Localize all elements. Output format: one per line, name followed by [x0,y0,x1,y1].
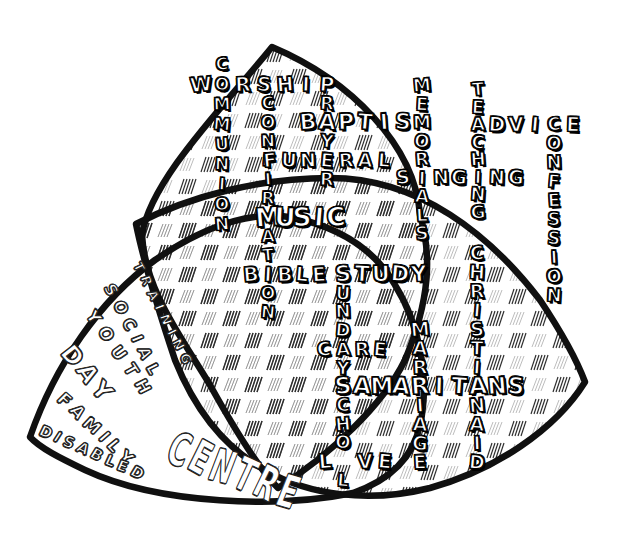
letter: M [412,76,431,95]
letter: F [263,150,278,170]
letter: E [547,191,561,210]
letter: N [214,215,230,233]
letter: C [326,203,347,230]
letter: O [214,195,229,213]
letter: N [300,150,317,170]
letter: V [357,451,373,472]
letter: I [218,176,225,193]
letter: I [313,204,325,231]
word-grid-layer: WRSHIPCOMMUNIONCONFIRATONRYRBAPTISMEMORI… [0,0,619,533]
letter: E [413,452,427,472]
letter: I [302,74,310,94]
letter: W [189,73,213,95]
letter: S [507,374,525,398]
letter: D [390,262,410,286]
letter: U [215,135,230,153]
letter: D [488,114,506,135]
letter: A [468,374,487,398]
letter: O [260,285,275,302]
letter: G [507,167,524,187]
letter: A [414,187,429,206]
letter: C [317,339,333,359]
letter: S [547,210,561,228]
letter: R [410,374,429,398]
letter: I [435,374,444,397]
letter: G [178,352,197,372]
letter: O [260,113,275,131]
letter: B [243,264,260,285]
letter: T [450,374,467,398]
letter: I [264,171,271,188]
letter: L [295,264,309,285]
letter: O [214,75,229,93]
letter: E [311,264,326,285]
letter: O [546,134,562,153]
letter: S [292,204,312,231]
letter: R [354,339,369,358]
letter: M [370,374,394,398]
letter: R [320,170,334,188]
letter: C [547,115,562,134]
letter: M [213,96,231,114]
letter: L [377,150,390,170]
letter: R [235,74,251,95]
letter: A [318,111,336,134]
letter: E [373,339,388,359]
letter: L [318,451,332,472]
letter: T [357,111,374,134]
letter: Y [410,263,427,286]
hand-drawn-trefoil-diagram: WRSHIPCOMMUNIONCONFIRATONRYRBAPTISMEMORI… [0,0,619,533]
letter: N [432,167,449,187]
letter: N [215,156,230,173]
word-centre: CENTRE [161,425,309,517]
letter: S [415,224,429,243]
letter: G [451,167,468,187]
letter: P [338,111,355,134]
letter: C [261,94,275,112]
letter: A [391,374,411,398]
letter: N [486,374,507,399]
letter: O [335,433,351,452]
letter: E [320,150,335,170]
letter: N [489,167,506,187]
letter: S [334,374,353,398]
letter: V [508,114,524,135]
letter: U [281,150,297,170]
letter: I [379,111,389,134]
letter: N [260,303,276,321]
letter: L [336,471,349,490]
letter: S [395,111,412,134]
letter: S [395,167,410,187]
letter: B [299,110,318,133]
letter: I [264,264,272,284]
letter: S [547,229,561,248]
letter: U [372,263,391,286]
letter: I [530,114,539,135]
letter: N [546,153,562,172]
letter: E [566,114,580,134]
letter: B [277,264,293,285]
letter: H [276,74,294,95]
letter: A [353,374,372,398]
letter: C [215,55,229,73]
letter: D [468,452,485,472]
letter: E [377,451,392,472]
letter: T [354,263,370,286]
letter: R [338,150,354,170]
letter: A [357,150,372,170]
letter: I [550,248,558,266]
letter: N [546,286,562,305]
letter: R [414,150,429,169]
letter: M [213,115,231,133]
letter: G [470,202,486,221]
letter: A [335,340,350,359]
